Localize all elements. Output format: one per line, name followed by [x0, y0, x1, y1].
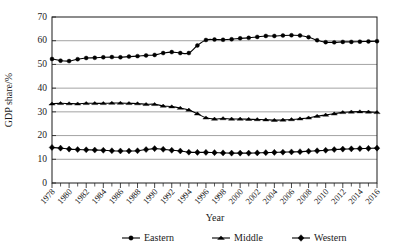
data-point-diamond-marker — [289, 149, 295, 155]
data-point-diamond-marker — [314, 148, 320, 154]
data-point-diamond-marker — [160, 146, 166, 152]
data-point-circle-marker — [247, 36, 251, 40]
data-point-circle-marker — [110, 55, 114, 59]
data-point-diamond-marker — [220, 150, 226, 156]
data-point-circle-marker — [204, 38, 208, 42]
data-point-circle-marker — [144, 53, 148, 57]
legend-item-western[interactable]: Western — [292, 232, 347, 243]
data-point-diamond-marker — [280, 149, 286, 155]
legend-circle-marker-icon — [129, 236, 133, 240]
data-point-diamond-marker — [195, 149, 201, 155]
x-tick-label: 2014 — [346, 186, 365, 206]
data-point-diamond-marker — [229, 150, 235, 156]
legend-label: Eastern — [144, 232, 174, 243]
data-point-circle-marker — [101, 55, 105, 59]
data-point-circle-marker — [187, 51, 191, 55]
x-axis-title: Year — [206, 212, 225, 223]
x-tick-label: 2004 — [260, 186, 279, 206]
y-tick-label: 30 — [38, 107, 48, 117]
data-point-diamond-marker — [58, 145, 64, 151]
data-point-circle-marker — [349, 40, 353, 44]
data-point-diamond-marker — [203, 149, 209, 155]
data-point-diamond-marker — [306, 148, 312, 154]
data-point-diamond-marker — [143, 147, 149, 153]
y-tick-label: 70 — [38, 12, 48, 22]
data-point-circle-marker — [375, 39, 379, 43]
chart-canvas: 010203040506070 197819801982198419861988… — [0, 0, 394, 250]
data-point-circle-marker — [366, 39, 370, 43]
data-point-diamond-marker — [331, 147, 337, 153]
data-point-circle-marker — [221, 38, 225, 42]
chart-legend: EasternMiddleWestern — [122, 232, 347, 243]
y-tick-label: 50 — [38, 59, 48, 69]
data-point-circle-marker — [341, 40, 345, 44]
data-point-diamond-marker — [135, 148, 141, 154]
data-point-diamond-marker — [272, 149, 278, 155]
x-tick-label: 1980 — [55, 187, 74, 206]
x-tick-label: 2002 — [243, 187, 262, 206]
x-tick-label: 1984 — [89, 186, 108, 206]
data-point-diamond-marker — [169, 147, 175, 153]
x-tick-label: 1996 — [192, 186, 211, 206]
data-point-circle-marker — [289, 33, 293, 37]
data-point-circle-marker — [153, 53, 157, 57]
x-tick-label: 2016 — [363, 186, 382, 206]
legend-item-middle[interactable]: Middle — [212, 232, 263, 243]
data-point-circle-marker — [50, 57, 54, 61]
data-point-circle-marker — [255, 35, 259, 39]
gdp-share-line-chart: 010203040506070 197819801982198419861988… — [0, 0, 394, 250]
series-middle — [49, 101, 380, 121]
y-tick-label: 10 — [38, 154, 48, 164]
data-point-circle-marker — [93, 56, 97, 60]
gridlines — [52, 41, 377, 160]
data-point-circle-marker — [170, 50, 174, 54]
data-point-diamond-marker — [177, 148, 183, 154]
data-point-diamond-marker — [75, 147, 81, 153]
y-tick-label: 40 — [38, 83, 48, 93]
data-point-diamond-marker — [212, 150, 218, 156]
x-tick-label: 1978 — [38, 187, 57, 206]
data-point-circle-marker — [307, 35, 311, 39]
data-point-circle-marker — [136, 54, 140, 58]
data-point-circle-marker — [358, 40, 362, 44]
data-point-circle-marker — [238, 36, 242, 40]
data-point-diamond-marker — [349, 146, 355, 152]
data-point-circle-marker — [195, 43, 199, 47]
data-point-diamond-marker — [101, 147, 107, 153]
x-tick-label: 1982 — [72, 187, 91, 206]
data-point-circle-marker — [298, 34, 302, 38]
data-point-diamond-marker — [340, 146, 346, 152]
x-tick-label: 1990 — [141, 187, 160, 206]
data-point-diamond-marker — [374, 145, 380, 151]
data-point-diamond-marker — [237, 150, 243, 156]
data-point-circle-marker — [230, 37, 234, 41]
x-tick-label: 2000 — [226, 187, 245, 206]
data-point-circle-marker — [332, 40, 336, 44]
data-point-circle-marker — [84, 56, 88, 60]
data-point-circle-marker — [161, 51, 165, 55]
data-point-diamond-marker — [357, 146, 363, 152]
data-point-circle-marker — [281, 34, 285, 38]
legend-label: Western — [314, 232, 347, 243]
legend-item-eastern[interactable]: Eastern — [122, 232, 174, 243]
x-tick-label: 1988 — [124, 187, 143, 206]
data-point-diamond-marker — [366, 145, 372, 151]
y-tick-label: 20 — [38, 130, 48, 140]
data-point-diamond-marker — [83, 147, 89, 153]
y-tick-label: 60 — [38, 35, 48, 45]
data-series — [49, 33, 380, 156]
series-western — [49, 144, 380, 156]
series-eastern — [50, 33, 379, 63]
y-axis-ticks: 010203040506070 — [38, 12, 57, 188]
data-point-diamond-marker — [49, 144, 55, 150]
data-point-circle-marker — [315, 38, 319, 42]
data-point-circle-marker — [213, 38, 217, 42]
data-point-diamond-marker — [323, 147, 329, 153]
data-point-circle-marker — [67, 59, 71, 63]
legend-label: Middle — [234, 232, 263, 243]
data-point-circle-marker — [272, 34, 276, 38]
data-point-diamond-marker — [66, 146, 72, 152]
x-axis-ticks: 1978198019821984198619881990199219941996… — [38, 183, 382, 206]
data-point-circle-marker — [178, 51, 182, 55]
x-tick-label: 2006 — [278, 186, 297, 206]
